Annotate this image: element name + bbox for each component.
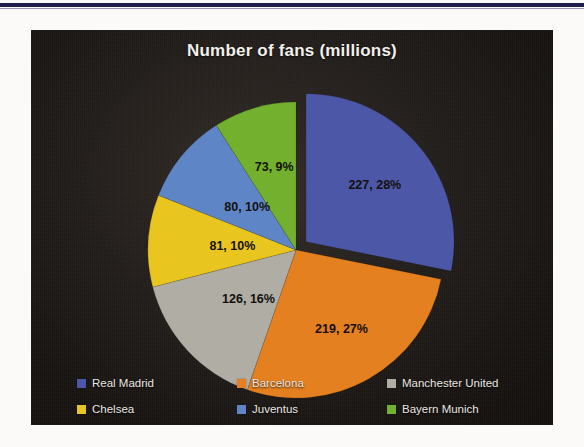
legend-label-manchester-united: Manchester United [402,377,499,389]
legend-label-juventus: Juventus [252,403,298,415]
pie-data-label-barcelona: 219, 27% [315,322,368,336]
page-top-rule [0,3,584,7]
pie-data-label-chelsea: 81, 10% [209,239,255,253]
pie-data-label-real-madrid: 227, 28% [348,178,401,192]
chart-legend: Real Madrid Barcelona Manchester United … [77,370,517,422]
legend-item-chelsea[interactable]: Chelsea [77,403,237,415]
legend-item-manchester-united[interactable]: Manchester United [387,377,553,389]
pie-chart: 227, 28%219, 27%126, 16%81, 10%80, 10%73… [31,30,553,425]
legend-item-barcelona[interactable]: Barcelona [237,377,387,389]
legend-item-juventus[interactable]: Juventus [237,403,387,415]
legend-swatch-chelsea [77,405,86,414]
pie-chart-svg: 227, 28%219, 27%126, 16%81, 10%80, 10%73… [31,30,553,425]
page-top-rule-secondary [0,8,584,9]
legend-swatch-manchester-united [387,379,396,388]
pie-slice-group [148,94,454,398]
legend-label-chelsea: Chelsea [92,403,134,415]
pie-data-label-bayern-munich: 73, 9% [255,160,294,174]
pie-data-label-juventus: 80, 10% [224,200,270,214]
legend-label-barcelona: Barcelona [252,377,304,389]
legend-item-real-madrid[interactable]: Real Madrid [77,377,237,389]
legend-swatch-juventus [237,405,246,414]
legend-item-bayern-munich[interactable]: Bayern Munich [387,403,553,415]
scanned-page: Number of fans (millions) 227, 28%219, 2… [0,0,584,447]
legend-swatch-real-madrid [77,379,86,388]
chart-panel: Number of fans (millions) 227, 28%219, 2… [31,30,553,425]
legend-label-bayern-munich: Bayern Munich [402,403,479,415]
legend-swatch-barcelona [237,379,246,388]
legend-label-real-madrid: Real Madrid [92,377,154,389]
chart-title: Number of fans (millions) [31,41,553,61]
legend-swatch-bayern-munich [387,405,396,414]
pie-data-label-manchester-united: 126, 16% [222,292,275,306]
